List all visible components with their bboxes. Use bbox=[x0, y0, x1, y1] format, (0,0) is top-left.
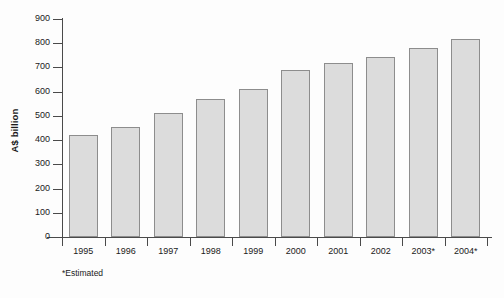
bar bbox=[281, 70, 310, 237]
bar bbox=[451, 39, 480, 237]
y-axis-tick-label: 900 bbox=[20, 14, 50, 24]
y-axis-tick-label-text: 0 bbox=[22, 232, 50, 241]
x-axis-tick-label: 1996 bbox=[105, 247, 148, 256]
x-axis-tick-label: 2003* bbox=[402, 247, 445, 256]
bar bbox=[154, 113, 183, 237]
x-axis-tick bbox=[402, 238, 403, 246]
y-axis-tick bbox=[53, 116, 62, 117]
y-axis-tick-label: 700 bbox=[20, 62, 50, 72]
y-axis-tick-label: 100 bbox=[20, 208, 50, 218]
y-axis-tick-label: 200 bbox=[20, 184, 50, 194]
x-axis-tick-label: 1999 bbox=[232, 247, 275, 256]
y-axis-tick bbox=[53, 237, 62, 238]
x-axis-tick-label: 1998 bbox=[190, 247, 233, 256]
bar bbox=[239, 89, 268, 237]
y-axis-tick-label-text: 300 bbox=[22, 159, 50, 168]
x-axis-line bbox=[47, 237, 492, 238]
y-axis-tick-label-text: 400 bbox=[22, 135, 50, 144]
bar bbox=[196, 99, 225, 237]
x-axis-tick-label: 2002 bbox=[360, 247, 403, 256]
bar bbox=[409, 48, 438, 237]
bar bbox=[324, 63, 353, 237]
x-axis-tick-label: 1997 bbox=[147, 247, 190, 256]
y-axis-tick-label-text: 800 bbox=[22, 38, 50, 47]
footnote: *Estimated bbox=[62, 268, 103, 278]
x-axis-tick bbox=[190, 238, 191, 246]
x-axis-tick bbox=[275, 238, 276, 246]
y-axis-tick bbox=[53, 140, 62, 141]
x-axis-tick-label: 1995 bbox=[62, 247, 105, 256]
y-axis-tick-label-text: 900 bbox=[22, 14, 50, 23]
x-axis-tick bbox=[105, 238, 106, 246]
y-axis-title: A$ billion bbox=[4, 90, 26, 170]
x-axis-tick bbox=[487, 238, 488, 246]
y-axis-tick-label-text: 500 bbox=[22, 111, 50, 120]
y-axis-tick bbox=[53, 213, 62, 214]
bar bbox=[69, 135, 98, 237]
x-axis-tick bbox=[360, 238, 361, 246]
y-axis-tick bbox=[53, 67, 62, 68]
bar bbox=[366, 57, 395, 237]
x-axis-tick bbox=[147, 238, 148, 246]
y-axis-title-label: A$ billion bbox=[10, 108, 21, 152]
y-axis-tick-label: 800 bbox=[20, 38, 50, 48]
y-axis-tick bbox=[53, 189, 62, 190]
bar bbox=[111, 127, 140, 237]
x-axis-tick-label: 2000 bbox=[275, 247, 318, 256]
y-axis-tick-label-text: 200 bbox=[22, 184, 50, 193]
x-axis-tick-label: 2004* bbox=[445, 247, 488, 256]
x-axis-tick bbox=[232, 238, 233, 246]
y-axis-tick-label: 0 bbox=[20, 232, 50, 242]
y-axis-tick-label-text: 100 bbox=[22, 208, 50, 217]
x-axis-tick-label: 2001 bbox=[317, 247, 360, 256]
y-axis-tick-label: 400 bbox=[20, 135, 50, 145]
plot-area bbox=[62, 19, 487, 237]
x-axis-tick bbox=[62, 238, 63, 246]
y-axis-tick bbox=[53, 43, 62, 44]
y-axis-tick bbox=[53, 92, 62, 93]
y-axis-tick bbox=[53, 164, 62, 165]
y-axis-tick-label: 300 bbox=[20, 159, 50, 169]
chart-figure: A$ billion 0100200300400500600700800900 … bbox=[0, 0, 504, 298]
y-axis-tick-label: 500 bbox=[20, 111, 50, 121]
x-axis-tick bbox=[445, 238, 446, 246]
y-axis-tick bbox=[53, 19, 62, 20]
y-axis-tick-label-text: 700 bbox=[22, 62, 50, 71]
y-axis-tick-label: 600 bbox=[20, 87, 50, 97]
y-axis-tick-label-text: 600 bbox=[22, 87, 50, 96]
x-axis-tick bbox=[317, 238, 318, 246]
